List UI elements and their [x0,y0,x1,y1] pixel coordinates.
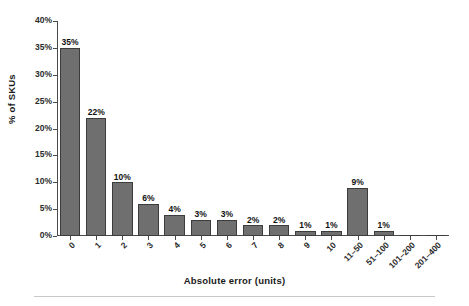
bar-value-label: 22% [88,107,105,117]
bar-value-label: 9% [351,177,363,187]
bar-slot: 6% [135,21,161,236]
x-label-slot: 1 [83,240,109,280]
bar-value-label: 1% [299,220,311,230]
bar-value-label: 3% [195,209,207,219]
x-label-slot: 8 [266,240,292,280]
y-axis-title: % of SKUs [6,4,17,124]
bar-slot: 3% [188,21,214,236]
x-axis-tick-label: 2 [119,240,129,250]
x-axis-tick-label: 11–50 [341,240,364,263]
bar: 6% [138,204,158,236]
y-axis-tick-label: 20% [17,123,57,135]
bar: 4% [164,215,184,237]
x-axis-tick-label: 3 [145,240,155,250]
bar-value-label: 6% [142,193,154,203]
x-label-slot: 0 [57,240,83,280]
bar: 3% [217,220,237,236]
bar-value-label: 3% [221,209,233,219]
x-label-slot: 10 [318,240,344,280]
x-axis-tick-label: 6 [224,240,234,250]
x-axis-title: Absolute error (units) [0,275,469,286]
y-axis-tick-label: 40% [17,15,57,27]
bar: 35% [60,48,80,236]
bar-value-label: 4% [168,204,180,214]
bar-slot: 1% [371,21,397,236]
y-axis-tick-label: 25% [17,96,57,108]
bar-slot: 35% [57,21,83,236]
x-label-slot: 6 [214,240,240,280]
x-axis-tick-label: 8 [276,240,286,250]
x-label-slot: 5 [188,240,214,280]
footer-divider [34,296,435,297]
y-axis-tick-label: 35% [17,42,57,54]
bar: 22% [86,118,106,236]
x-axis-tick-label: 7 [250,240,260,250]
bar-slot: 2% [240,21,266,236]
bar-value-label: 10% [114,172,131,182]
y-axis-tick-label: 15% [17,149,57,161]
y-axis-tick-label: 30% [17,69,57,81]
bar-value-label: 1% [378,220,390,230]
bar-slot: 2% [266,21,292,236]
bar-slot [397,21,423,236]
plot-area: 0%5%10%15%20%25%30%35%40% 35%22%10%6%4%3… [57,21,449,236]
bar: 10% [112,182,132,236]
bar-slot: 22% [83,21,109,236]
bar-slot: 1% [292,21,318,236]
x-label-slot: 201–400 [423,240,449,280]
bar-slot: 9% [345,21,371,236]
x-label-slot: 9 [292,240,318,280]
bar-value-label: 2% [273,215,285,225]
bar-value-label: 35% [62,37,79,47]
x-axis-tick-label: 4 [171,240,181,250]
x-axis-tick-label: 9 [302,240,312,250]
bar: 9% [347,188,367,236]
bar-slot [423,21,449,236]
y-axis-tick-label: 5% [17,203,57,215]
bar: 2% [269,225,289,236]
bar-value-label: 2% [247,215,259,225]
bar: 2% [243,225,263,236]
bar-slot: 1% [318,21,344,236]
x-label-slot: 2 [109,240,135,280]
chart-figure: % of SKUs 0%5%10%15%20%25%30%35%40% 35%2… [0,0,469,306]
x-axis-tick-label: 1 [93,240,103,250]
bar-series: 35%22%10%6%4%3%3%2%2%1%1%9%1% [57,21,449,236]
bar: 3% [191,220,211,236]
x-axis-tick-label: 10 [325,240,339,254]
y-axis-tick-mark [53,236,57,237]
bar-value-label: 1% [325,220,337,230]
x-label-slot: 4 [162,240,188,280]
x-label-slot: 7 [240,240,266,280]
bar-slot: 3% [214,21,240,236]
x-label-slot: 3 [135,240,161,280]
y-axis-tick-label: 10% [17,176,57,188]
x-axis-tick-label: 5 [197,240,207,250]
y-axis-tick-label: 0% [17,230,57,242]
bar-slot: 4% [162,21,188,236]
bar-slot: 10% [109,21,135,236]
x-axis-tick-label: 0 [67,240,77,250]
x-axis-tick-labels: 01234567891011–5051–100101–200201–400 [57,240,449,280]
